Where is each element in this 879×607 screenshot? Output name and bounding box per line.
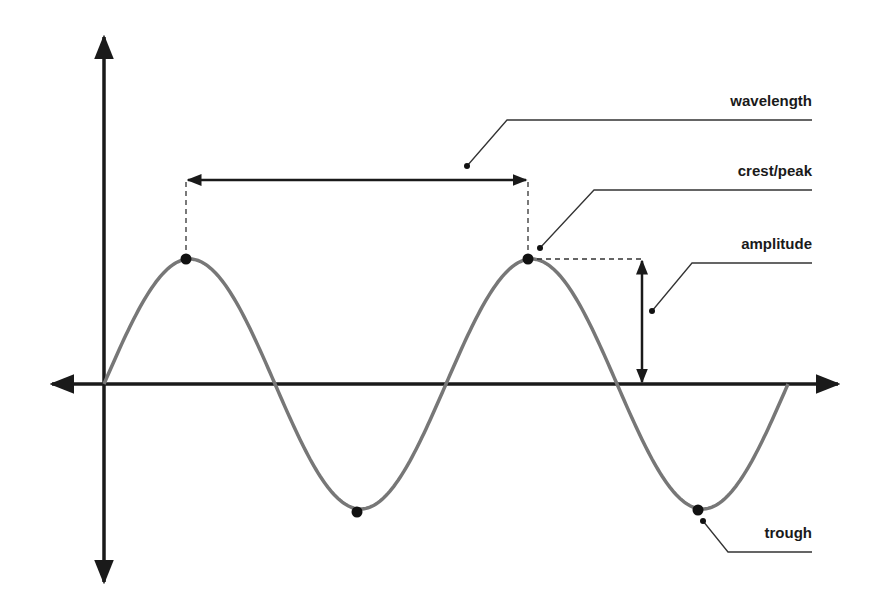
crest-point-1 xyxy=(181,254,192,265)
amplitude-label: amplitude xyxy=(741,235,812,252)
trough-point-2 xyxy=(693,505,704,516)
wavelength-label: wavelength xyxy=(730,92,812,109)
crest-label: crest/peak xyxy=(738,162,812,179)
trough-label: trough xyxy=(765,524,812,541)
trough-point-1 xyxy=(352,507,363,518)
crest-point-2 xyxy=(523,254,534,265)
amplitude-leader xyxy=(649,263,812,314)
